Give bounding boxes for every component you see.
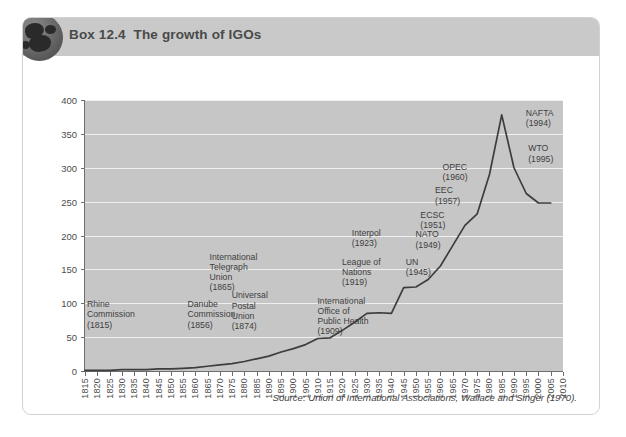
box-panel: Box 12.4 The growth of IGOs 050100150200…: [22, 17, 600, 415]
source-caption: Source: Union of International Associati…: [272, 392, 577, 403]
box-title: Box 12.4 The growth of IGOs: [69, 27, 261, 42]
box-header: Box 12.4 The growth of IGOs: [23, 18, 599, 56]
chart-area: 0501001502002503003504001815182018251830…: [23, 56, 599, 415]
globe-icon: [22, 17, 63, 61]
series-line-number-of-igos: [23, 56, 600, 415]
